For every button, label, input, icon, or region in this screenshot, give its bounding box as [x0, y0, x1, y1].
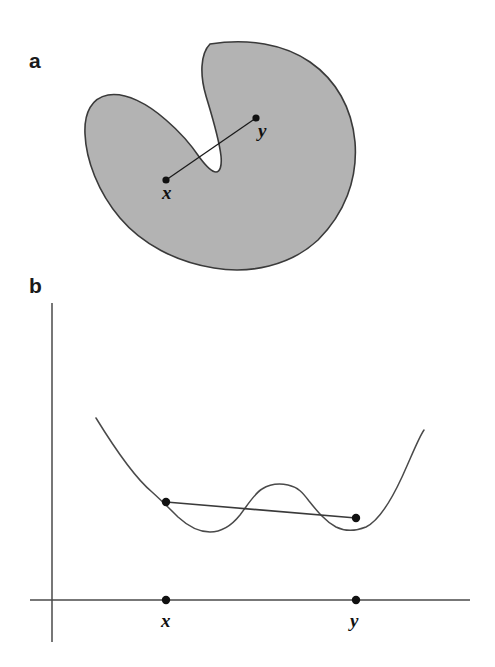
shaded-set-region: [85, 42, 355, 270]
chord-xy-panel-b: [166, 502, 356, 518]
axis-point-label-x: x: [161, 611, 171, 630]
point-label-x-panel-a: x: [162, 183, 172, 202]
panel-b-graphic: [0, 287, 495, 667]
curve-point-x-marker: [162, 498, 170, 506]
axis-point-x-marker: [162, 596, 170, 604]
point-label-y-panel-a: y: [258, 121, 266, 140]
figure-container: a b x y x y: [0, 0, 495, 667]
axis-point-y-marker: [352, 596, 360, 604]
panel-a-graphic: [0, 0, 495, 290]
curve-point-y-marker: [352, 514, 360, 522]
function-curve: [96, 418, 424, 532]
axis-point-label-y: y: [350, 611, 358, 630]
